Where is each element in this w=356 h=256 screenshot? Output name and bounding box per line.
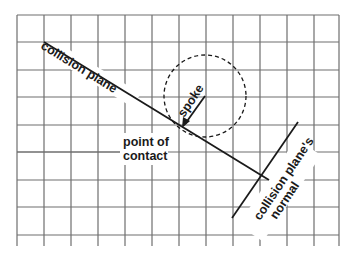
point-of-contact-label-line2: contact [123, 149, 168, 163]
collision-plane-label: collision plane [38, 39, 119, 96]
collision-diagram: collision plane spoke point of contact c… [0, 0, 356, 256]
point-of-contact-label-line1: point of [123, 135, 170, 149]
